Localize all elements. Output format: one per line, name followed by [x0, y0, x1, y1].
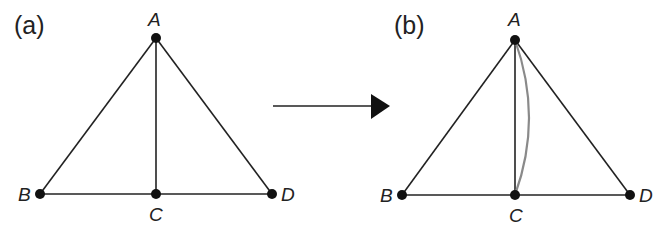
edge-a-d — [156, 38, 272, 194]
curved-edge-a-c — [515, 40, 529, 195]
vertex-label-a: A — [147, 9, 161, 30]
panel-label-b: (b) — [394, 11, 425, 39]
diagram-canvas: (a) A B C D (b) A B C D — [0, 0, 668, 244]
vertex-label-c: C — [149, 204, 163, 225]
vertex-label-a: A — [507, 9, 521, 30]
node-b — [397, 190, 407, 200]
node-a — [510, 35, 520, 45]
vertex-label-d: D — [639, 185, 653, 206]
edge-a-d — [515, 40, 630, 195]
node-d — [625, 190, 635, 200]
right-arrow-icon — [273, 94, 390, 119]
panel-label-a: (a) — [14, 11, 45, 39]
edge-a-b — [402, 40, 515, 195]
vertex-label-c: C — [509, 205, 523, 226]
panel-b: (b) A B C D — [380, 9, 653, 226]
node-c — [510, 190, 520, 200]
panel-a: (a) A B C D — [14, 9, 295, 225]
edge-a-b — [40, 38, 156, 194]
node-c — [151, 189, 161, 199]
vertex-label-b: B — [380, 185, 393, 206]
vertex-label-b: B — [18, 184, 31, 205]
node-b — [35, 189, 45, 199]
vertex-label-d: D — [281, 184, 295, 205]
node-a — [151, 33, 161, 43]
node-d — [267, 189, 277, 199]
